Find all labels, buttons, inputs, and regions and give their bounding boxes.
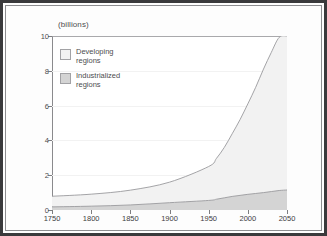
y-tick-label: 8 bbox=[45, 66, 49, 75]
x-tick-label: 1850 bbox=[122, 214, 139, 223]
y-axis-ticks bbox=[52, 36, 53, 210]
y-tick-label: 4 bbox=[45, 136, 49, 145]
chart-title: (billions) bbox=[58, 20, 89, 29]
x-tick-label: 2000 bbox=[239, 214, 256, 223]
y-tick-label: 10 bbox=[41, 32, 49, 41]
x-tick-label: 1800 bbox=[83, 214, 100, 223]
chart-figure: (billions) 0246810 175018001850190019502… bbox=[0, 0, 327, 236]
legend-label-line2: regions bbox=[76, 56, 101, 65]
legend-item-developing-regions: Developing regions bbox=[60, 48, 120, 65]
x-tick-label: 1900 bbox=[161, 214, 178, 223]
legend-item-industrialized-regions: Industrialized regions bbox=[60, 72, 120, 89]
x-tick-label: 1950 bbox=[200, 214, 217, 223]
x-axis-labels: 1750180018501900195020002050 bbox=[52, 214, 287, 228]
y-tick-label: 6 bbox=[45, 101, 49, 110]
legend-label-line2: regions bbox=[76, 80, 101, 89]
legend-label-developing-regions: Developing regions bbox=[76, 48, 114, 65]
y-axis-labels: 0246810 bbox=[33, 36, 49, 210]
legend-swatch-industrialized-regions bbox=[60, 73, 71, 84]
legend-swatch-developing-regions bbox=[60, 49, 71, 60]
legend-label-industrialized-regions: Industrialized regions bbox=[76, 72, 120, 89]
x-tick-label: 2050 bbox=[279, 214, 296, 223]
x-tick-label: 1750 bbox=[44, 214, 61, 223]
legend: Developing regions Industrialized region… bbox=[60, 48, 120, 96]
y-tick-label: 2 bbox=[45, 171, 49, 180]
